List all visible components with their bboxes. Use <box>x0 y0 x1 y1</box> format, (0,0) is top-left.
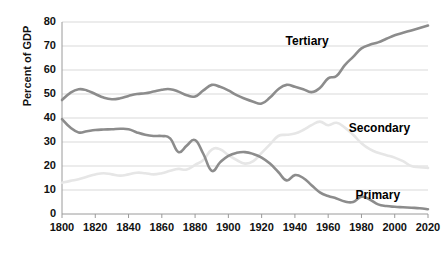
series-paths-group <box>62 26 428 210</box>
x-tick-label-2020: 2020 <box>408 222 445 233</box>
y-tick-label-40: 40 <box>30 112 56 123</box>
y-tick-label-70: 70 <box>30 40 56 51</box>
x-tick-marks-group <box>62 214 428 218</box>
y-tick-label-30: 30 <box>30 136 56 147</box>
y-tick-label-60: 60 <box>30 64 56 75</box>
series-annotation-secondary: Secondary <box>349 121 410 135</box>
y-tick-label-0: 0 <box>30 208 56 219</box>
y-tick-label-20: 20 <box>30 160 56 171</box>
y-tick-label-50: 50 <box>30 88 56 99</box>
series-annotation-primary: Primary <box>355 188 400 202</box>
y-tick-label-80: 80 <box>30 16 56 27</box>
series-line-tertiary <box>62 26 428 104</box>
y-tick-label-10: 10 <box>30 184 56 195</box>
series-annotation-tertiary: Tertiary <box>286 34 329 48</box>
